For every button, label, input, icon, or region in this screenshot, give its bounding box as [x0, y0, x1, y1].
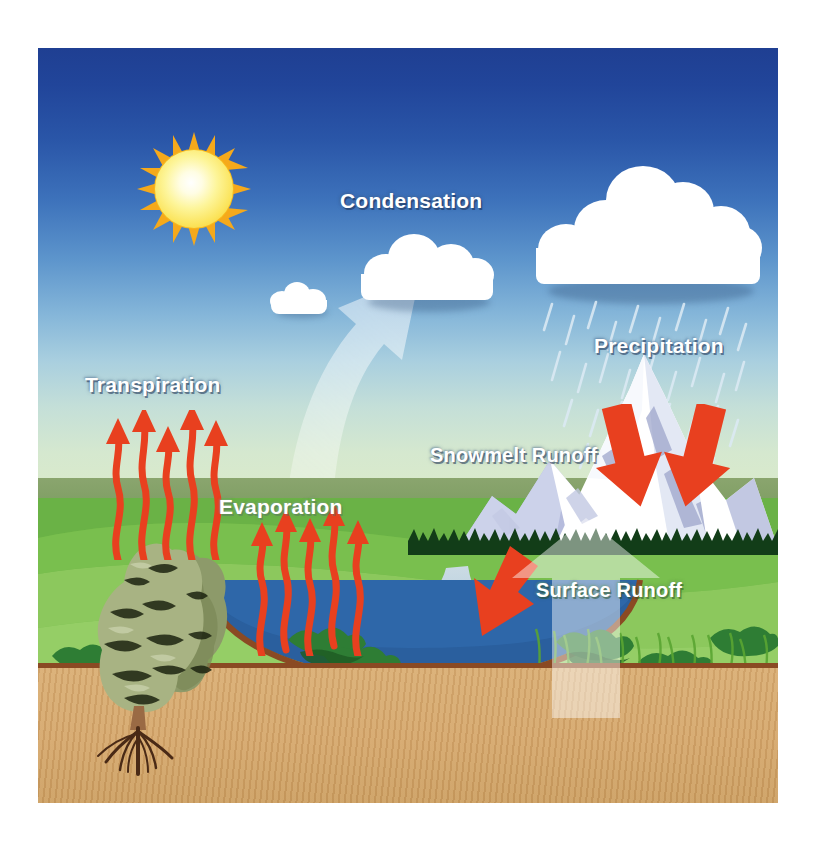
water-cycle-diagram: Condensation Transpiration Evaporation P…	[38, 48, 778, 803]
label-snowmelt-runoff: Snowmelt Runoff	[430, 444, 597, 467]
label-surface-runoff: Surface Runoff	[536, 579, 682, 602]
snowmelt-arrows-icon	[590, 404, 730, 512]
translucent-up-arrow-icon	[490, 518, 680, 718]
label-condensation: Condensation	[340, 189, 482, 213]
label-transpiration: Transpiration	[85, 373, 221, 397]
evaporation-arrows-icon	[244, 506, 374, 656]
medium-cloud-icon	[358, 234, 496, 316]
label-evaporation: Evaporation	[219, 495, 343, 519]
label-precipitation: Precipitation	[594, 334, 724, 358]
storm-cloud-icon	[532, 166, 764, 314]
transpiration-arrows-icon	[96, 410, 236, 560]
page-root: Condensation Transpiration Evaporation P…	[0, 0, 815, 850]
small-cloud-icon	[270, 282, 330, 320]
